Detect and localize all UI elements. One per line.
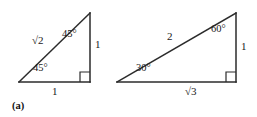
label-left-vertical-leg: 1 bbox=[95, 39, 101, 50]
geometry-figure: √2 45° 45° 1 1 2 60° 30° 1 √3 (a) bbox=[0, 0, 257, 117]
label-left-base: 1 bbox=[52, 86, 58, 97]
label-right-base: √3 bbox=[185, 86, 197, 97]
label-left-base-angle: 45° bbox=[33, 63, 48, 74]
label-left-hypotenuse: √2 bbox=[32, 35, 44, 46]
label-right-base-angle: 30° bbox=[136, 63, 151, 74]
label-right-apex-angle: 60° bbox=[211, 24, 226, 35]
right-angle-icon bbox=[226, 72, 236, 82]
triangles-drawing bbox=[0, 0, 257, 117]
label-right-hypotenuse: 2 bbox=[167, 31, 173, 42]
triangle-left-hypotenuse-edge bbox=[19, 13, 90, 82]
label-left-apex-angle: 45° bbox=[62, 29, 77, 40]
triangle-45-45-90 bbox=[19, 13, 90, 82]
label-right-vertical-leg: 1 bbox=[241, 41, 247, 52]
right-angle-icon bbox=[80, 72, 90, 82]
figure-caption: (a) bbox=[12, 101, 24, 112]
